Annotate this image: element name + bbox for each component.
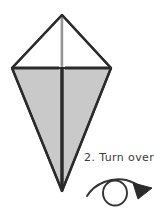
figure-canvas bbox=[0, 0, 154, 216]
origami-step-figure: 2. Turn over. bbox=[0, 0, 154, 216]
step-caption: 2. Turn over. bbox=[84, 151, 154, 165]
